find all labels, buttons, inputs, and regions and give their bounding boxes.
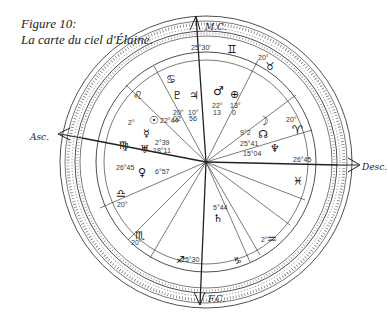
pluto-icon: ♇ [172, 89, 182, 102]
sun-icon: ☉ [149, 114, 159, 127]
saturn-icon: ♄ [213, 212, 223, 225]
svg-text:25°41: 25°41 [240, 140, 258, 147]
jupiter-icon: ♃ [189, 89, 199, 102]
svg-text:♊: ♊ [227, 43, 237, 56]
svg-text:♉: ♉ [265, 60, 275, 73]
svg-text:♎: ♎ [116, 187, 126, 200]
earth-icon: ⊕ [230, 88, 239, 101]
neptune-icon: ♆ [270, 142, 280, 155]
svg-text:♍: ♍ [119, 139, 129, 152]
svg-text:9°2: 9°2 [240, 129, 251, 136]
venus-icon: ♀ [138, 166, 146, 179]
astrological-chart: M.C. F.C. Asc. Desc. 25°30' ♊ 20° ♉ 20° … [0, 0, 388, 321]
svg-text:2°: 2° [128, 119, 135, 126]
moon-icon: ☽ [258, 114, 269, 128]
fc-label: F.C. [207, 294, 225, 304]
svg-text:0: 0 [232, 109, 236, 116]
svg-text:♏: ♏ [135, 229, 145, 242]
svg-text:20°: 20° [117, 201, 128, 208]
svg-text:6°57: 6°57 [155, 168, 170, 175]
svg-text:22°44: 22°44 [160, 117, 178, 124]
svg-text:26°45: 26°45 [116, 164, 134, 171]
desc-line [206, 162, 338, 165]
fc-line [200, 162, 206, 305]
svg-text:26°45: 26°45 [293, 156, 311, 163]
svg-text:13°: 13° [230, 102, 241, 109]
north-node-icon: ☊ [258, 128, 268, 141]
svg-text:♒: ♒ [267, 233, 277, 246]
svg-text:♓: ♓ [293, 175, 303, 188]
svg-text:56: 56 [189, 115, 197, 122]
asc-label: Asc. [29, 132, 49, 142]
svg-text:♌: ♌ [133, 89, 143, 102]
svg-text:♋: ♋ [166, 73, 176, 86]
mercury-icon: ☿ [143, 127, 150, 140]
svg-text:25°30': 25°30' [191, 44, 211, 51]
svg-text:15°04: 15°04 [243, 150, 261, 157]
desc-label: Desc. [361, 162, 387, 172]
svg-text:5°44: 5°44 [213, 204, 228, 211]
svg-text:20°: 20° [286, 116, 297, 123]
svg-text:18°11: 18°11 [153, 147, 171, 154]
svg-text:♐: ♐ [176, 254, 185, 265]
chart-wheel [58, 16, 360, 308]
svg-text:♑: ♑ [233, 255, 242, 266]
svg-text:2°39: 2°39 [155, 139, 170, 146]
svg-text:♈: ♈ [292, 123, 303, 137]
svg-text:13: 13 [213, 109, 221, 116]
uranus-icon: ♅ [140, 143, 150, 156]
planet-labels: ♇ 20° 02 ♃ 10° 56 ♂ 22° 13 ⊕ 13° 0 ☉ 22°… [138, 84, 280, 225]
mars-icon: ♂ [213, 84, 224, 98]
mc-label: M.C. [204, 22, 227, 32]
svg-text:22°: 22° [212, 102, 223, 109]
